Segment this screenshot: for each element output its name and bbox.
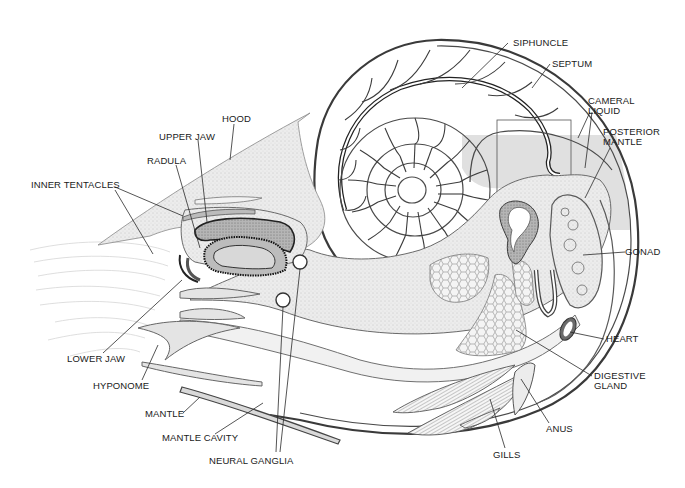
label-gills: GILLS: [493, 449, 520, 460]
outer-tentacles-ghost: [30, 242, 170, 356]
label-siphuncle: SIPHUNCLE: [513, 37, 568, 48]
label-lower-jaw: LOWER JAW: [67, 353, 125, 364]
nautilus-anatomy-diagram: SIPHUNCLE SEPTUM CAMERAL LIQUID POSTERIO…: [0, 0, 685, 488]
label-radula: RADULA: [147, 155, 187, 166]
label-anus: ANUS: [546, 423, 573, 434]
label-upper-jaw: UPPER JAW: [159, 131, 215, 142]
label-mantle-cavity: MANTLE CAVITY: [162, 432, 239, 443]
label-neural-ganglia: NEURAL GANGLIA: [209, 455, 294, 466]
label-heart: HEART: [606, 333, 639, 344]
anus-tube: [513, 363, 535, 415]
label-mantle: MANTLE: [145, 408, 184, 419]
label-digestive-gland-line2: GLAND: [594, 380, 627, 391]
label-hyponome: HYPONOME: [93, 380, 149, 391]
label-inner-tentacles: INNER TENTACLES: [31, 179, 120, 190]
label-septum: SEPTUM: [552, 58, 592, 69]
label-gonad: GONAD: [625, 246, 660, 257]
label-hood: HOOD: [222, 113, 251, 124]
label-posterior-mantle-line2: MANTLE: [603, 136, 642, 147]
label-cameral-liquid-line2: LIQUID: [588, 105, 620, 116]
